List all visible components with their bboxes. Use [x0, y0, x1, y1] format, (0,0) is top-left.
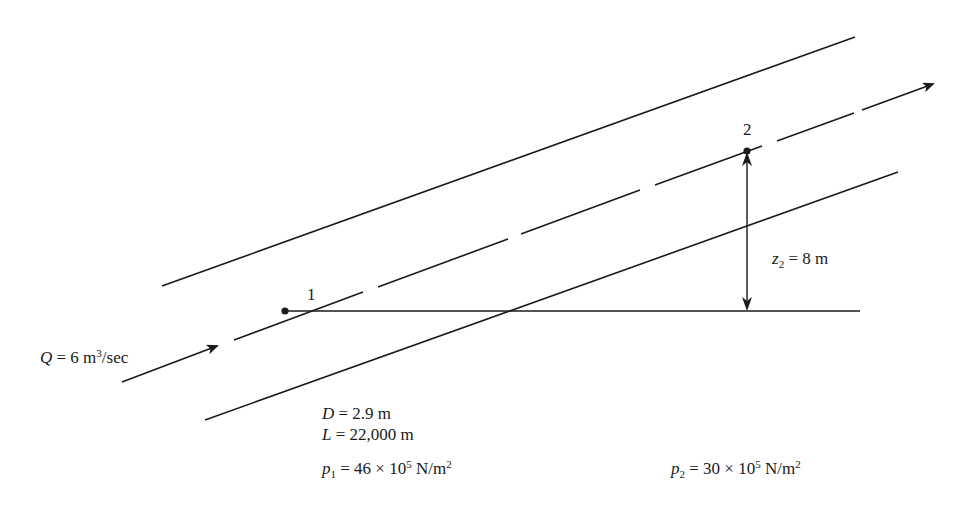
- pressure-2-value: = 30 × 10: [685, 459, 755, 478]
- pressure-1-unit-exponent: 2: [446, 458, 452, 470]
- inlet-flow-arrow: [122, 346, 217, 382]
- length-label: L = 22,000 m: [322, 426, 414, 443]
- pressure-2-label: p2 = 30 × 105 N/m2: [671, 460, 801, 477]
- flow-unit: /sec: [102, 348, 128, 367]
- pressure-1-label: p1 = 46 × 105 N/m2: [322, 460, 452, 477]
- point-2-label: 2: [743, 121, 752, 138]
- pipe-top-wall: [162, 37, 855, 286]
- point-2-marker: [743, 147, 750, 154]
- elevation-symbol: z: [772, 249, 779, 268]
- pressure-1-symbol: p: [322, 459, 331, 478]
- diameter-symbol: D: [322, 404, 334, 423]
- flow-rate-label: Q = 6 m3/sec: [40, 349, 128, 366]
- point-1-label: 1: [307, 286, 316, 303]
- flow-symbol: Q: [40, 348, 52, 367]
- elevation-value: = 8 m: [784, 249, 828, 268]
- diameter-label: D = 2.9 m: [322, 405, 391, 422]
- elevation-label: z2 = 8 m: [772, 250, 828, 267]
- point-1-marker: [281, 307, 288, 314]
- pressure-1-value: = 46 × 10: [336, 459, 406, 478]
- pipe-centerline: [234, 84, 933, 340]
- pressure-2-symbol: p: [671, 459, 680, 478]
- diameter-value: = 2.9 m: [334, 404, 391, 423]
- flow-value: = 6 m: [52, 348, 96, 367]
- pressure-1-unit: N/m: [412, 459, 446, 478]
- pressure-2-unit-exponent: 2: [795, 458, 801, 470]
- pressure-2-unit: N/m: [761, 459, 795, 478]
- length-value: = 22,000 m: [331, 425, 413, 444]
